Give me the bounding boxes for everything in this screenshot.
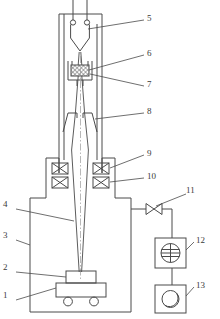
callout-label-1: 1: [3, 291, 8, 300]
callout-label-7: 7: [147, 80, 152, 89]
movable-work-table: [56, 283, 106, 306]
vacuum-piping: [131, 209, 172, 285]
gate-valve-symbol: [146, 204, 162, 215]
vacuum-pump-symbol: [155, 285, 186, 313]
callout-label-2: 2: [3, 263, 8, 272]
callout-label-6: 6: [147, 49, 152, 58]
v-filament-cathode: [70, 0, 89, 51]
callout-label-9: 9: [147, 149, 152, 158]
callout-label-12: 12: [196, 236, 205, 245]
callout-label-3: 3: [3, 231, 8, 240]
workpiece: [66, 271, 96, 283]
callout-label-11: 11: [186, 186, 195, 195]
beam-limiting-aperture: [63, 113, 97, 132]
callout-label-8: 8: [147, 107, 152, 116]
diagram-canvas: [0, 0, 220, 319]
vacuum-gauge-symbol: [155, 238, 186, 268]
callout-label-13: 13: [196, 281, 205, 290]
callout-label-10: 10: [147, 172, 156, 181]
electron-beam-welder-diagram: 1 2 3 4 5 6 7 8 9 10 11 12 13: [0, 0, 220, 319]
callout-label-5: 5: [147, 14, 152, 23]
callout-leader-lines: [16, 20, 194, 300]
callout-label-4: 4: [3, 200, 8, 209]
hatched-anode-block: [68, 61, 92, 86]
electron-beam-path: [72, 52, 89, 272]
diagram-linework: [16, 0, 194, 313]
